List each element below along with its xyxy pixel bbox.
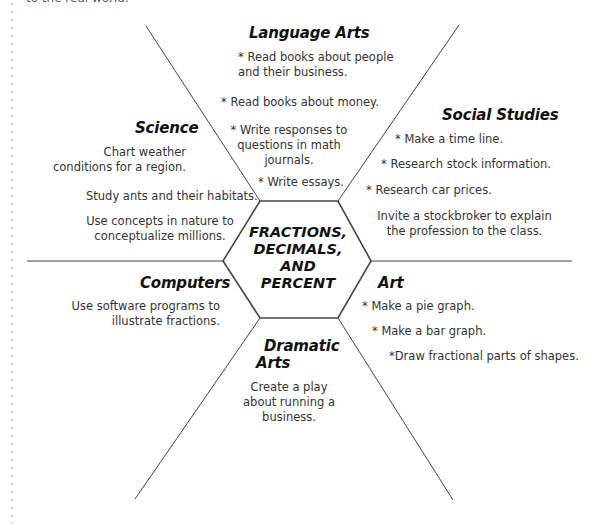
language-arts-item-4: * Write essays. [258, 175, 358, 190]
computers-item-1: Use software programs to illustrate frac… [66, 299, 220, 329]
art-item-3: *Draw fractional parts of shapes. [389, 349, 579, 364]
social-studies-item-4: Invite a stockbroker to explain the prof… [372, 209, 557, 239]
social-studies-item-1: * Make a time line. [395, 132, 503, 147]
social-studies-item-2: * Research stock information. [381, 157, 551, 172]
language-arts-item-2: * Read books about money. [210, 95, 390, 110]
dramatic-arts-item-1: Create a play about running a business. [234, 380, 344, 425]
science-heading: Science [135, 119, 198, 137]
science-item-3: Use concepts in nature to conceptualize … [85, 214, 235, 244]
language-arts-item-1: * Read books about people and their busi… [238, 50, 408, 80]
dramatic-arts-heading-line-2: Arts [256, 355, 339, 372]
dramatic-arts-heading-line-1: Dramatic [256, 338, 339, 355]
social-studies-heading: Social Studies [442, 106, 558, 124]
center-topic: FRACTIONS, DECIMALS, AND PERCENT [228, 224, 368, 292]
center-line-4: PERCENT [228, 275, 368, 292]
art-heading: Art [378, 274, 404, 292]
language-arts-heading: Language Arts [249, 24, 370, 42]
center-line-2: DECIMALS, [228, 241, 368, 258]
social-studies-item-3: * Research car prices. [366, 183, 492, 198]
art-item-2: * Make a bar graph. [372, 324, 486, 339]
computers-heading: Computers [140, 274, 230, 292]
spoke-bottom-right [338, 318, 453, 500]
art-item-1: * Make a pie graph. [362, 299, 475, 314]
science-item-1: Chart weather conditions for a region. [52, 145, 186, 175]
center-line-3: AND [228, 258, 368, 275]
dramatic-arts-heading: Dramatic Arts [256, 338, 339, 372]
language-arts-item-3: * Write responses to questions in math j… [224, 123, 354, 168]
science-item-2: Study ants and their habitats. [86, 189, 258, 204]
center-line-1: FRACTIONS, [228, 224, 368, 241]
